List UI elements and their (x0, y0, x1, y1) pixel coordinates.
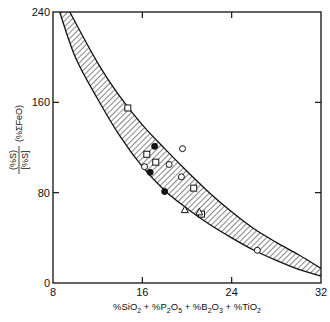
y-tick-label: 0 (44, 277, 50, 289)
band-fill (60, 12, 321, 276)
y-axis-label: (%S) [%S] (%ΣFeO) (8, 105, 30, 174)
y-tick-label: 80 (38, 187, 50, 199)
filled-circle-marker (147, 169, 153, 175)
y-label-numerator: (%S) (8, 150, 18, 170)
open-circle-marker (180, 146, 186, 152)
open-square-marker (144, 151, 150, 157)
chart: 8162432080160240 %SiO2 + %P2O5 + %B2O3 +… (0, 0, 330, 322)
filled-circle-marker (152, 143, 158, 149)
open-square-marker (125, 105, 131, 111)
open-circle-marker (178, 174, 184, 180)
plot-frame (53, 12, 321, 283)
open-square-marker (191, 185, 197, 191)
x-tick-label: 24 (226, 286, 238, 298)
x-tick-label: 8 (50, 286, 56, 298)
y-tick-label: 240 (32, 6, 50, 18)
filled-circle-marker (162, 189, 168, 195)
y-label-suffix: (%ΣFeO) (14, 105, 24, 142)
x-tick-label: 16 (136, 286, 148, 298)
open-circle-marker (166, 161, 172, 167)
band-lower-curve (60, 12, 321, 276)
x-axis-label: %SiO2 + %P2O5 + %B2O3 + %TiO2 (113, 301, 261, 314)
open-square-marker (153, 159, 159, 165)
open-circle-marker (142, 164, 148, 170)
band-upper-curve (70, 12, 321, 268)
x-tick-label: 32 (315, 286, 327, 298)
open-circle-marker (254, 247, 260, 253)
hatched-band (60, 12, 321, 276)
y-tick-label: 160 (32, 96, 50, 108)
y-label-denominator: [%S] (20, 150, 30, 169)
